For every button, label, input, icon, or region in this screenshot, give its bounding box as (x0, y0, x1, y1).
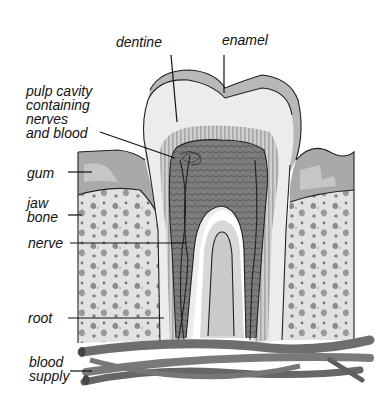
blood-supply-vessels (79, 340, 371, 385)
label-gum: gum (27, 166, 54, 180)
right-jaw-bone (280, 190, 354, 340)
right-jaw-block (280, 148, 354, 340)
label-enamel: enamel (222, 33, 268, 47)
label-pulp-cavity: pulp cavity containing nerves and blood (26, 84, 92, 140)
label-blood-supply: blood supply (29, 355, 69, 383)
label-jaw-bone: jaw bone (27, 196, 58, 224)
label-dentine: dentine (116, 35, 162, 49)
label-nerve: nerve (28, 236, 63, 250)
label-root: root (28, 311, 52, 325)
tooth (144, 70, 302, 345)
left-jaw-bone (78, 188, 168, 343)
